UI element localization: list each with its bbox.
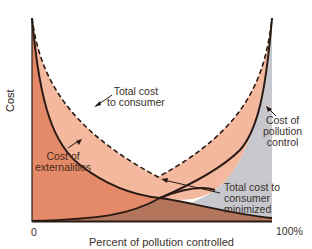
x-tick-start: 0 <box>31 227 37 238</box>
total-cost-annotation: Total cost to consumer <box>107 86 165 108</box>
annotation-text: externalities <box>35 162 91 173</box>
arrowhead-icon <box>94 101 101 107</box>
annotation-text: control <box>263 137 302 148</box>
annotation-text: to consumer <box>107 97 165 108</box>
externalities-annotation: Cost of externalities <box>35 151 91 173</box>
minimized-annotation: Total cost to consumer minimized <box>224 182 280 215</box>
x-axis-label: Percent of pollution controlled <box>89 237 234 248</box>
annotation-text: minimized <box>224 204 280 215</box>
x-tick-end: 100% <box>276 226 303 237</box>
y-axis-label: Cost <box>4 89 16 112</box>
control-annotation: Cost of pollution control <box>263 115 302 148</box>
